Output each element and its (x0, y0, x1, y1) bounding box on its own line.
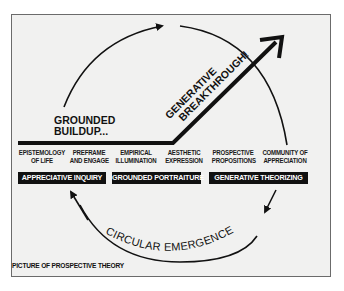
diagram-graphics: CIRCULAR EMERGENCE GENERATIVE BREAKTHROU… (0, 0, 344, 291)
svg-text:BREAKTHROUGH!: BREAKTHROUGH! (176, 48, 251, 123)
stage-line2: OF LIFE (18, 157, 66, 165)
stage-line1: EPISTEMOLOGY (18, 149, 66, 157)
lower-right-arrow (265, 190, 276, 212)
stage-line1: EMPIRICAL (115, 149, 157, 157)
stage-line1: PREFRAME (70, 149, 109, 157)
generative-breakthrough-label: GENERATIVE BREAKTHROUGH! (162, 40, 250, 128)
stage-line1: PROSPECTIVE (212, 149, 254, 157)
stage-line1: AESTHETIC (165, 149, 204, 157)
stage-community: COMMUNITY OF APPRECIATION (262, 149, 308, 165)
phase-generative-theorizing: GENERATIVE THEORIZING (209, 172, 308, 184)
stage-line2: AND ENGAGE (70, 157, 109, 165)
stage-line2: EXPRESSION (165, 157, 204, 165)
stage-line2: APPRECIATION (262, 157, 308, 165)
upper-left-arc-arrow (64, 26, 162, 107)
stage-preframe: PREFRAME AND ENGAGE (70, 149, 109, 165)
phase-grounded-portraiture: GROUNDED PORTRAITURE (112, 172, 201, 184)
stage-line1: COMMUNITY OF (262, 149, 308, 157)
stage-aesthetic: AESTHETIC EXPRESSION (165, 149, 204, 165)
circular-emergence-label: CIRCULAR EMERGENCE (104, 223, 235, 253)
stage-prospective: PROSPECTIVE PROPOSITIONS (212, 149, 254, 165)
stage-empirical: EMPIRICAL ILLUMINATION (115, 149, 157, 165)
stage-line2: ILLUMINATION (115, 157, 157, 165)
grounded-buildup-line2: BUILDUP... (54, 126, 115, 137)
phase-appreciative-inquiry: APPRECIATIVE INQUIRY (18, 172, 106, 184)
stage-line2: PROPOSITIONS (212, 157, 254, 165)
figure-caption: PICTURE OF PROSPECTIVE THEORY (12, 262, 124, 269)
stage-epistemology: EPISTEMOLOGY OF LIFE (18, 149, 66, 165)
grounded-buildup-label: GROUNDED BUILDUP... (54, 115, 115, 137)
